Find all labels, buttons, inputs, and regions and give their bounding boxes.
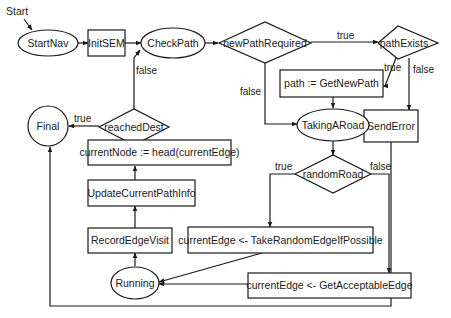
node-takerandomedge[interactable]: currentEdge <- TakeRandomEdgeIfPossible [178, 227, 383, 253]
node-randomroad[interactable]: randomRoad [295, 155, 371, 193]
node-randomroad-label: randomRoad [303, 168, 364, 180]
node-senderror-label: SendError [367, 120, 415, 132]
node-newpathrequired-label: newPathRequired [223, 37, 307, 49]
start-label: Start [6, 5, 28, 17]
edge-label-rd-true: true [74, 113, 92, 124]
edge-reacheddest-checkpath [134, 50, 140, 109]
node-recordedgevisit[interactable]: RecordEdgeVisit [88, 228, 172, 253]
node-getacceptableedge[interactable]: currentEdge <- GetAcceptableEdge [246, 273, 412, 298]
node-running[interactable]: Running [111, 267, 159, 299]
edge-randomroad-getacceptableedge [371, 174, 389, 273]
edge-label-rr-false: false [370, 161, 392, 172]
node-initsem-label: InitSEM [88, 37, 125, 49]
edge-takerandomedge-running [159, 253, 262, 282]
edge-label-rr-true: true [275, 161, 293, 172]
edge-label-rd-false: false [136, 65, 158, 76]
node-takerandomedge-label: currentEdge <- TakeRandomEdgeIfPossible [178, 234, 383, 246]
edge-label-npr-true: true [337, 30, 355, 41]
node-startnav-label: StartNav [28, 37, 70, 49]
node-checkpath[interactable]: CheckPath [141, 28, 205, 58]
node-currentnode-label: currentNode := head(currentEdge) [79, 146, 239, 158]
node-newpathrequired[interactable]: newPathRequired [219, 22, 311, 63]
node-senderror[interactable]: SendError [364, 110, 418, 142]
node-final-label: Final [37, 120, 60, 132]
node-getnewpath[interactable]: path := GetNewPath [280, 70, 383, 97]
node-final[interactable]: Final [28, 106, 68, 146]
node-pathexists[interactable]: pathExists [378, 26, 438, 59]
node-reacheddest-label: reachedDest [104, 121, 164, 133]
node-getnewpath-label: path := GetNewPath [284, 77, 379, 89]
node-updatecurrentpathinfo-label: UpdateCurrentPathInfo [88, 187, 196, 199]
node-checkpath-label: CheckPath [147, 37, 199, 49]
edge-start-startnav [24, 19, 32, 30]
node-takingaroad-label: TakingARoad [302, 119, 365, 131]
node-running-label: Running [115, 277, 154, 289]
node-takingaroad[interactable]: TakingARoad [297, 109, 369, 141]
node-pathexists-label: pathExists [380, 37, 428, 49]
edge-label-pe-false: false [413, 64, 435, 75]
node-getacceptableedge-label: currentEdge <- GetAcceptableEdge [246, 279, 412, 291]
edge-randomroad-takerandomedge [270, 174, 295, 227]
flowchart-canvas: Start StartNav InitSEM CheckPath newPath… [0, 0, 451, 318]
edge-label-npr-false: false [240, 86, 262, 97]
node-recordedgevisit-label: RecordEdgeVisit [91, 234, 169, 246]
edge-label-pe-true: true [384, 62, 402, 73]
node-updatecurrentpathinfo[interactable]: UpdateCurrentPathInfo [88, 180, 196, 206]
node-startnav[interactable]: StartNav [18, 30, 78, 56]
node-currentnode[interactable]: currentNode := head(currentEdge) [79, 140, 239, 165]
node-initsem[interactable]: InitSEM [88, 30, 125, 56]
